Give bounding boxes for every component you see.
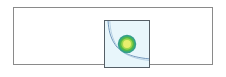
figure-caption	[14, 8, 15, 9]
image-preview-panel	[13, 7, 213, 65]
contour-plot-svg	[105, 21, 149, 67]
contour-ring-level-4	[123, 40, 131, 48]
chart-x-axis-label	[14, 8, 15, 9]
chart-y-axis-label	[14, 8, 15, 9]
chart-title	[14, 8, 15, 9]
contour-plot-thumbnail[interactable]	[104, 20, 150, 68]
screenshot-root	[0, 0, 226, 77]
